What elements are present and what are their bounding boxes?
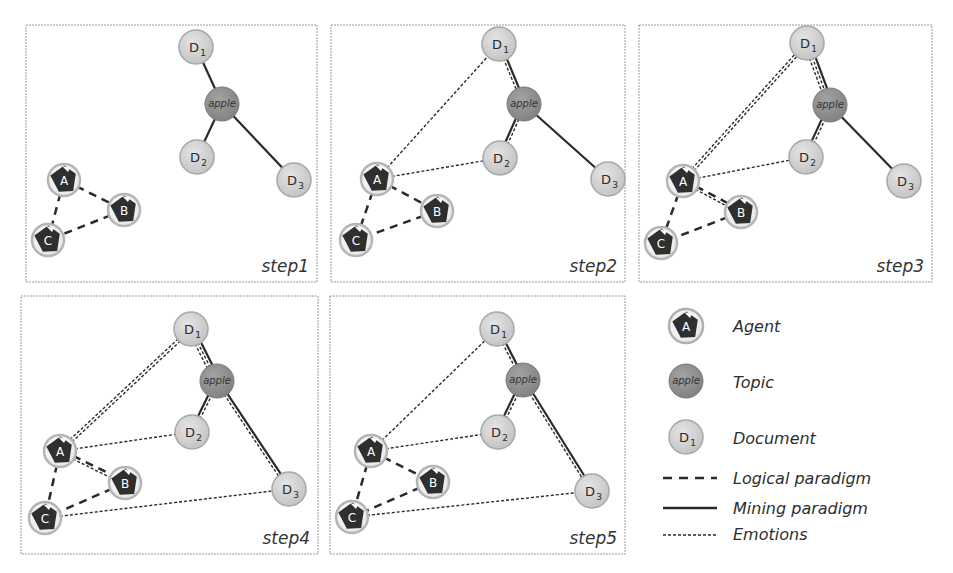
document-subscript: 1 <box>200 48 206 58</box>
panel-border <box>26 25 317 282</box>
topic-label: apple <box>208 98 236 109</box>
document-label: D <box>490 322 500 337</box>
legend-logical-text: Logical paradigm <box>733 469 871 488</box>
legend-document-text: Document <box>733 429 817 448</box>
document-label: D <box>190 150 200 165</box>
agent-label: C <box>41 512 49 526</box>
document-label: D <box>800 36 810 51</box>
document-label: D <box>601 172 611 187</box>
step-label: step5 <box>569 528 617 548</box>
document-node-d3: D3 <box>272 472 306 506</box>
panel-border <box>330 296 625 554</box>
document-subscript: 3 <box>612 180 618 190</box>
panel-step3: ABCappleD1D2D3 step3 <box>639 25 932 282</box>
document-subscript: 1 <box>195 330 201 340</box>
document-node-d3: D3 <box>575 474 609 508</box>
agent-label: A <box>56 445 65 459</box>
document-subscript: 1 <box>501 330 507 340</box>
agent-label: C <box>352 234 360 248</box>
agent-label: C <box>657 237 665 251</box>
topic-node-apple: apple <box>205 87 239 121</box>
agent-node-a: A <box>48 163 80 196</box>
agent-label: B <box>737 206 745 220</box>
document-label: D <box>287 173 297 188</box>
agent-label: B <box>429 476 437 490</box>
topic-label: apple <box>509 374 537 385</box>
panel-step2: ABCappleD1D2D3 step2 <box>331 25 625 282</box>
agent-label: A <box>679 175 688 189</box>
agent-node-a: A <box>361 162 393 195</box>
agent-node-b: B <box>109 466 141 499</box>
agent-node-c: C <box>32 223 64 256</box>
agent-node-b: B <box>417 465 449 498</box>
agent-label: A <box>60 174 69 188</box>
document-subscript: 1 <box>811 44 817 54</box>
document-subscript: 3 <box>293 490 299 500</box>
document-subscript: 1 <box>503 45 509 55</box>
legend-emotions: Emotions <box>663 525 807 544</box>
document-label: D <box>585 484 595 499</box>
panel-border <box>639 25 932 282</box>
document-node-d2: D2 <box>789 140 823 174</box>
agent-label: B <box>120 204 128 218</box>
document-label: D <box>799 150 809 165</box>
document-node-d1: D1 <box>790 26 824 60</box>
document-subscript: 2 <box>201 158 207 168</box>
document-node-d1: D1 <box>480 312 514 346</box>
legend-agent: A Agent <box>669 309 781 343</box>
topic-node-apple: apple <box>813 88 847 122</box>
agent-icon: A <box>669 309 703 343</box>
panel-step4: ABCappleD1D2D3 step4 <box>21 296 318 554</box>
step-label: step1 <box>261 256 309 276</box>
document-label: D <box>493 151 503 166</box>
step-label: step3 <box>876 256 924 276</box>
legend-topic: apple Topic <box>669 364 774 398</box>
document-label: D <box>184 322 194 337</box>
agent-label: A <box>367 445 376 459</box>
document-label: D <box>492 37 502 52</box>
svg-text:1: 1 <box>690 438 696 448</box>
document-node-d3: D3 <box>887 164 921 198</box>
legend-emotions-text: Emotions <box>733 525 807 544</box>
agent-label: C <box>348 511 356 525</box>
document-node-d2: D2 <box>483 141 517 175</box>
document-subscript: 2 <box>502 433 508 443</box>
svg-text:D: D <box>679 430 689 445</box>
document-label: D <box>491 425 501 440</box>
document-label: D <box>189 40 199 55</box>
document-node-d2: D2 <box>175 415 209 449</box>
svg-text:apple: apple <box>672 375 700 386</box>
agent-label: A <box>373 173 382 187</box>
document-subscript: 3 <box>596 492 602 502</box>
topic-node-apple: apple <box>506 363 540 397</box>
agent-node-b: B <box>108 193 140 226</box>
agent-node-a: A <box>667 164 699 197</box>
topic-label: apple <box>816 99 844 110</box>
legend-document: D 1 Document <box>669 420 817 454</box>
agent-node-a: A <box>355 434 387 467</box>
document-icon: D 1 <box>669 420 703 454</box>
agent-node-b: B <box>725 195 757 228</box>
topic-label: apple <box>510 98 538 109</box>
document-subscript: 3 <box>908 182 914 192</box>
document-label: D <box>185 425 195 440</box>
legend-agent-text: Agent <box>732 317 781 336</box>
agent-label: B <box>433 205 441 219</box>
panel-step5: ABCappleD1D2D3 step5 <box>330 296 625 554</box>
legend-mining: Mining paradigm <box>663 499 868 518</box>
document-label: D <box>897 174 907 189</box>
agent-node-c: C <box>336 500 368 533</box>
legend-mining-text: Mining paradigm <box>733 499 868 518</box>
agent-node-c: C <box>645 226 677 259</box>
legend-topic-text: Topic <box>733 373 774 392</box>
document-subscript: 2 <box>810 158 816 168</box>
document-subscript: 2 <box>504 159 510 169</box>
document-node-d2: D2 <box>481 415 515 449</box>
agent-label: C <box>44 234 52 248</box>
topic-node-apple: apple <box>507 87 541 121</box>
step-label: step4 <box>262 528 310 548</box>
document-node-d1: D1 <box>174 312 208 346</box>
legend: A Agent apple Topic D 1 Document Logical… <box>663 309 871 544</box>
document-node-d3: D3 <box>277 163 311 197</box>
agent-label: B <box>121 477 129 491</box>
